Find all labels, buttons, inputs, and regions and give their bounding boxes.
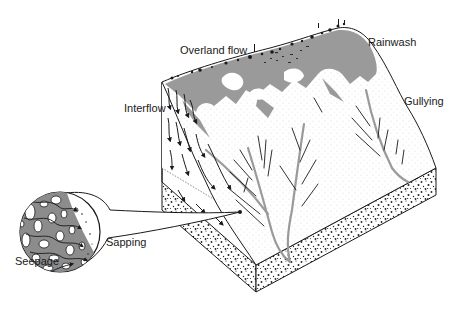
label-overland-flow: Overland flow bbox=[180, 45, 247, 56]
label-rainwash: Rainwash bbox=[368, 37, 416, 48]
label-seepage: Seepage bbox=[15, 256, 59, 267]
label-sapping: Sapping bbox=[106, 237, 146, 248]
label-interflow: Interflow bbox=[124, 103, 166, 114]
label-gullying: Gullying bbox=[404, 96, 444, 107]
